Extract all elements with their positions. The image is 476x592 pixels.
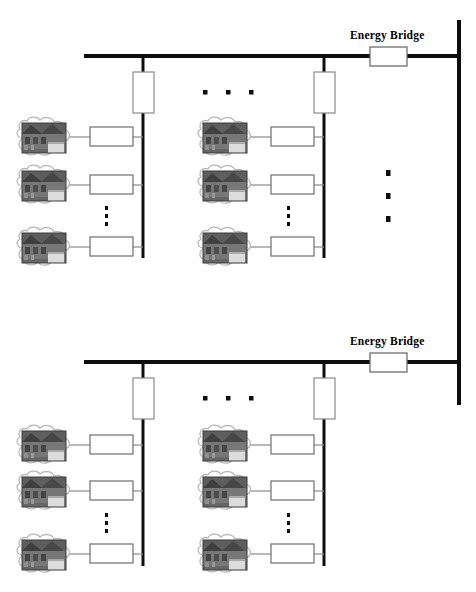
meter-box-icon[interactable] <box>271 544 314 563</box>
house-photo-icon <box>203 477 247 507</box>
lower-column-middle <box>198 362 335 572</box>
lower-energy-bridge-box[interactable] <box>370 353 407 372</box>
upper-feeder-section <box>17 47 459 265</box>
house-photo-icon <box>22 477 66 507</box>
customer-branch <box>17 471 143 509</box>
meter-box-icon[interactable] <box>271 435 314 454</box>
lower-column-ellipsis-icon <box>203 396 254 401</box>
customer-branch <box>198 227 324 265</box>
meter-box-icon[interactable] <box>90 481 133 500</box>
house-photo-icon <box>22 540 66 570</box>
customer-branch <box>198 117 324 155</box>
transformer-box-icon[interactable] <box>314 378 335 419</box>
customer-branch <box>198 534 324 572</box>
house-photo-icon <box>22 233 66 263</box>
customer-branch <box>17 117 143 155</box>
vertical-ellipsis-icon <box>287 206 290 226</box>
customer-branch <box>17 425 143 463</box>
house-photo-icon <box>203 123 247 153</box>
customer-branch <box>198 425 324 463</box>
upper-column-middle <box>198 56 335 265</box>
customer-branch <box>198 165 324 203</box>
upper-energy-bridge-label: Energy Bridge <box>350 29 424 41</box>
transformer-box-icon[interactable] <box>314 72 335 113</box>
house-photo-icon <box>22 171 66 201</box>
upper-column-left <box>17 56 154 265</box>
vertical-ellipsis-icon <box>105 513 108 533</box>
vertical-ellipsis-icon <box>287 513 290 533</box>
customer-branch <box>198 471 324 509</box>
house-photo-icon <box>203 540 247 570</box>
diagram-root <box>17 20 459 572</box>
meter-box-icon[interactable] <box>271 237 314 256</box>
meter-box-icon[interactable] <box>90 237 133 256</box>
transformer-box-icon[interactable] <box>133 378 154 419</box>
meter-box-icon[interactable] <box>90 435 133 454</box>
meter-box-icon[interactable] <box>90 544 133 563</box>
upper-energy-bridge-box[interactable] <box>370 47 407 66</box>
lower-energy-bridge-label: Energy Bridge <box>350 335 424 347</box>
meter-box-icon[interactable] <box>90 127 133 146</box>
customer-branch <box>17 165 143 203</box>
customer-branch <box>17 227 143 265</box>
transformer-box-icon[interactable] <box>133 72 154 113</box>
energy-bridge-network-diagram <box>0 0 476 592</box>
upper-bus-ellipsis-icon <box>386 170 391 222</box>
upper-column-ellipsis-icon <box>203 90 254 95</box>
meter-box-icon[interactable] <box>90 175 133 194</box>
customer-branch <box>17 534 143 572</box>
vertical-ellipsis-icon <box>105 206 108 226</box>
house-photo-icon <box>22 123 66 153</box>
house-photo-icon <box>203 431 247 461</box>
house-photo-icon <box>22 431 66 461</box>
house-photo-icon <box>203 171 247 201</box>
meter-box-icon[interactable] <box>271 175 314 194</box>
lower-feeder-section <box>17 353 459 572</box>
meter-box-icon[interactable] <box>271 481 314 500</box>
house-photo-icon <box>203 233 247 263</box>
lower-column-left <box>17 362 154 572</box>
meter-box-icon[interactable] <box>271 127 314 146</box>
